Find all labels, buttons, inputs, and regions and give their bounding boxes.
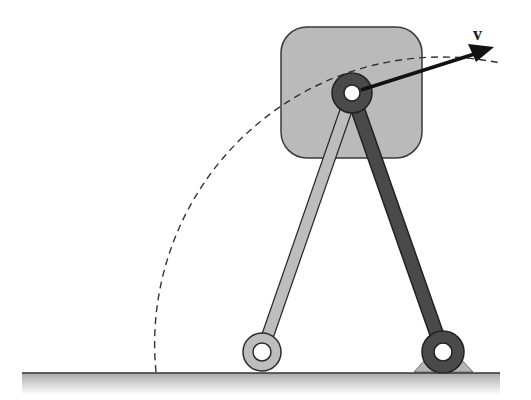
left-pivot-hole [253,343,271,361]
top-joint [332,73,372,113]
ground-shade [22,373,500,395]
ground [22,373,500,395]
top-joint-hole [344,85,360,101]
velocity-label: v [473,24,482,44]
linkage-diagram: v [0,0,531,400]
right-pivot-hole [434,343,452,361]
left-pivot [243,333,281,371]
right-pivot [422,331,464,373]
